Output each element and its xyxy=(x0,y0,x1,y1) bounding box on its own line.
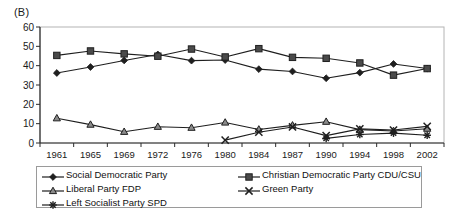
diamond-marker-icon xyxy=(50,174,57,181)
square-marker-icon xyxy=(256,45,262,51)
asterisk-marker-icon xyxy=(322,135,330,143)
square-marker-icon xyxy=(323,55,329,61)
line-chart-svg: 0102030405060196119651969197219761980198… xyxy=(0,18,454,158)
legend-label: Liberal Party FDP xyxy=(66,183,141,195)
x-tick-label: 1980 xyxy=(215,149,236,159)
y-tick-label: 40 xyxy=(23,60,35,71)
square-marker-icon xyxy=(222,54,228,60)
chart-legend: Social Democratic PartyChristian Democra… xyxy=(36,166,422,208)
panel-label: (B) xyxy=(14,6,29,18)
square-marker-icon xyxy=(289,54,295,60)
cross-marker-icon xyxy=(237,185,261,196)
x-tick-label: 1961 xyxy=(46,149,67,159)
asterisk-marker-icon xyxy=(390,129,398,137)
x-tick-label: 1972 xyxy=(147,149,168,159)
series-line xyxy=(326,133,427,138)
legend-item-green-party[interactable]: Green Party xyxy=(233,182,423,196)
x-tick-label: 1984 xyxy=(248,149,269,159)
series-3 xyxy=(53,114,431,134)
triangle-marker-icon xyxy=(323,118,330,124)
square-marker-icon xyxy=(188,46,194,52)
triangle-marker-icon xyxy=(154,123,161,129)
square-marker-icon xyxy=(246,174,252,180)
asterisk-marker-icon xyxy=(423,131,431,139)
diamond-marker-icon xyxy=(188,57,195,64)
x-tick-label: 1987 xyxy=(282,149,303,159)
square-marker-icon xyxy=(424,65,430,71)
legend-marker-key xyxy=(41,197,65,209)
square-marker-icon xyxy=(155,53,161,59)
triangle-marker-icon xyxy=(53,114,60,120)
triangle-marker-icon xyxy=(222,119,229,125)
x-tick-label: 1990 xyxy=(316,149,337,159)
diamond-marker-icon xyxy=(323,75,330,82)
legend-marker-key xyxy=(237,169,261,181)
legend-label: Green Party xyxy=(262,183,313,195)
asterisk-marker-icon xyxy=(41,199,65,210)
plot-area: 0102030405060196119651969197219761980198… xyxy=(0,18,454,158)
x-tick-label: 1969 xyxy=(114,149,135,159)
y-tick-label: 60 xyxy=(23,22,35,33)
diamond-marker-icon xyxy=(87,64,94,71)
square-marker-icon xyxy=(87,48,93,54)
series-1 xyxy=(53,51,430,82)
y-tick-label: 50 xyxy=(23,41,35,52)
asterisk-marker-icon xyxy=(49,201,57,209)
legend-item-christian-democratic-party-cdu-csu[interactable]: Christian Democratic Party CDU/CSU xyxy=(233,168,423,182)
series-line xyxy=(57,49,427,75)
diamond-marker-icon xyxy=(390,61,397,68)
series-2 xyxy=(54,45,431,78)
legend-item-left-socialist-party-spd[interactable]: Left Socialist Party SPD xyxy=(37,196,233,210)
diamond-marker-icon xyxy=(289,68,296,75)
legend-label: Social Democratic Party xyxy=(66,169,167,181)
legend-label: Christian Democratic Party CDU/CSU xyxy=(262,169,421,181)
asterisk-marker-icon xyxy=(356,131,364,139)
legend-marker-key xyxy=(41,183,65,195)
x-tick-label: 1994 xyxy=(349,149,370,159)
legend-item-social-democratic-party[interactable]: Social Democratic Party xyxy=(37,168,233,182)
series-5 xyxy=(322,129,431,142)
y-tick-label: 20 xyxy=(23,99,35,110)
series-line xyxy=(57,54,427,78)
x-tick-label: 1998 xyxy=(383,149,404,159)
square-marker-icon xyxy=(390,72,396,78)
legend-label: Left Socialist Party SPD xyxy=(66,197,167,209)
y-tick-label: 30 xyxy=(23,80,35,91)
diamond-marker-icon xyxy=(41,171,65,182)
legend-marker-key xyxy=(237,183,261,195)
square-marker-icon xyxy=(357,60,363,66)
square-marker-icon xyxy=(237,171,261,182)
diamond-marker-icon xyxy=(53,70,60,77)
triangle-marker-icon xyxy=(49,187,56,193)
triangle-marker-icon xyxy=(41,185,65,196)
x-tick-label: 1965 xyxy=(80,149,101,159)
square-marker-icon xyxy=(121,51,127,57)
diamond-marker-icon xyxy=(255,66,262,73)
y-tick-label: 0 xyxy=(28,138,34,149)
y-tick-label: 10 xyxy=(23,118,35,129)
square-marker-icon xyxy=(54,52,60,58)
x-tick-label: 1976 xyxy=(181,149,202,159)
diamond-marker-icon xyxy=(121,57,128,64)
x-tick-label: 2002 xyxy=(417,149,438,159)
figure-panel-b: (B) 010203040506019611965196919721976198… xyxy=(0,0,454,214)
legend-marker-key xyxy=(41,169,65,181)
diamond-marker-icon xyxy=(356,69,363,76)
legend-item-liberal-party-fdp[interactable]: Liberal Party FDP xyxy=(37,182,233,196)
